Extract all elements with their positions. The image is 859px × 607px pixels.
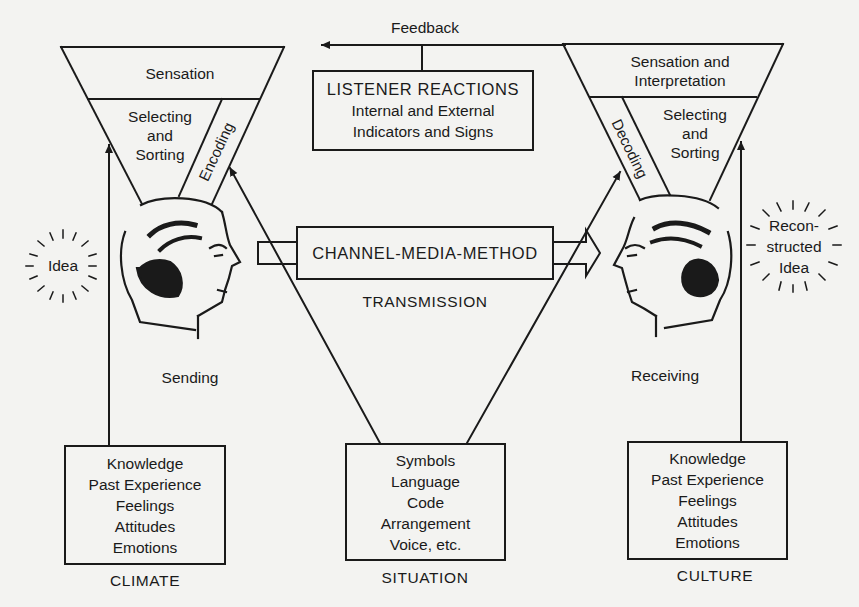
listener-reactions-box: LISTENER REACTIONS Internal and External… bbox=[312, 70, 534, 151]
sensation-interpretation-label: Sensation and Interpretation bbox=[600, 52, 760, 90]
listener-reactions-title: LISTENER REACTIONS bbox=[327, 79, 519, 100]
situation-item: Arrangement bbox=[381, 513, 471, 534]
sensation-label: Sensation bbox=[120, 64, 240, 83]
reconstructed-idea-label: Recon- structed Idea bbox=[758, 215, 830, 278]
sensation-and-line: Sensation and bbox=[600, 52, 760, 71]
climate-box: Knowledge Past Experience Feelings Attit… bbox=[64, 445, 226, 565]
culture-item: Attitudes bbox=[677, 511, 737, 532]
situation-item: Language bbox=[391, 471, 460, 492]
culture-box: Knowledge Past Experience Feelings Attit… bbox=[627, 441, 788, 560]
listener-reactions-line: Internal and External bbox=[351, 100, 494, 121]
receiving-label: Receiving bbox=[620, 366, 710, 385]
climate-item: Attitudes bbox=[115, 516, 175, 537]
feedback-arrow bbox=[322, 45, 565, 70]
recon-line: Recon- bbox=[758, 215, 830, 236]
sending-label: Sending bbox=[150, 368, 230, 387]
idea-label: Idea bbox=[40, 256, 86, 275]
and-line: and bbox=[110, 126, 210, 145]
climate-item: Knowledge bbox=[107, 453, 184, 474]
situation-item: Symbols bbox=[396, 450, 455, 471]
idea-line: Idea bbox=[758, 257, 830, 278]
climate-item: Past Experience bbox=[89, 474, 202, 495]
situation-item: Voice, etc. bbox=[390, 534, 462, 555]
receiver-head-icon bbox=[614, 195, 731, 336]
culture-item: Feelings bbox=[678, 490, 737, 511]
listener-reactions-line: Indicators and Signs bbox=[353, 121, 493, 142]
situation-caption: SITUATION bbox=[370, 568, 480, 587]
and-line: and bbox=[645, 124, 745, 143]
interpretation-line: Interpretation bbox=[600, 71, 760, 90]
climate-item: Feelings bbox=[116, 495, 175, 516]
sorting-line: Sorting bbox=[110, 145, 210, 164]
channel-media-method-box: CHANNEL-MEDIA-METHOD bbox=[296, 226, 554, 280]
culture-item: Knowledge bbox=[669, 448, 746, 469]
climate-item: Emotions bbox=[113, 537, 178, 558]
sorting-line: Sorting bbox=[645, 143, 745, 162]
climate-caption: CLIMATE bbox=[90, 571, 200, 590]
culture-caption: CULTURE bbox=[660, 566, 770, 585]
culture-item: Past Experience bbox=[651, 469, 764, 490]
situation-box: Symbols Language Code Arrangement Voice,… bbox=[345, 443, 506, 561]
selecting-line: Selecting bbox=[110, 107, 210, 126]
culture-item: Emotions bbox=[675, 532, 740, 553]
transmission-label: TRANSMISSION bbox=[340, 292, 510, 311]
sender-head-icon bbox=[121, 198, 240, 338]
channel-label: CHANNEL-MEDIA-METHOD bbox=[312, 243, 538, 264]
feedback-label: Feedback bbox=[385, 18, 465, 37]
receiver-selecting-sorting-label: Selecting and Sorting bbox=[645, 105, 745, 162]
selecting-sorting-label: Selecting and Sorting bbox=[110, 107, 210, 164]
selecting-line: Selecting bbox=[645, 105, 745, 124]
structed-line: structed bbox=[758, 236, 830, 257]
situation-item: Code bbox=[407, 492, 444, 513]
